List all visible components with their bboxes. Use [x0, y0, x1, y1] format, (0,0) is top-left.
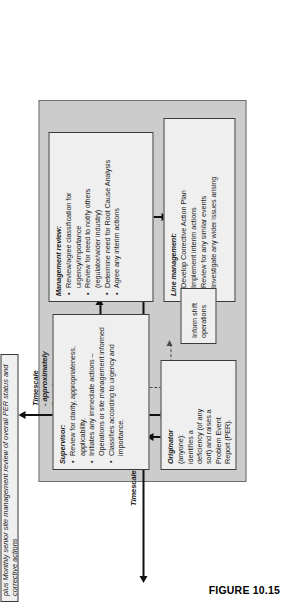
- box-supervisor: Supervisor: Review for clarity, appropri…: [52, 314, 149, 470]
- box-originator-header: Originator: [165, 366, 174, 464]
- box-originator-line-5: Problem Event: [213, 366, 222, 464]
- box-management-review-list: Review/agree classification for urgency/…: [63, 138, 120, 296]
- box-originator-line-3: deficiency (of any: [194, 366, 203, 464]
- box-inform-shift-operations: Inform shift operations: [180, 288, 216, 344]
- box-line-management-item-4: Investigate any wider issues arising: [208, 124, 217, 288]
- box-line-management-item-3: Review for any similar events: [198, 124, 207, 288]
- box-monthly-review-text: plus Monthly senior site management revi…: [0, 360, 18, 596]
- timescale-3-days-arrowhead-start: [139, 576, 147, 583]
- timescale-2-weeks-arrowhead-start: [18, 411, 25, 419]
- box-supervisor-item-2: Initiates any immediate actions – Operat…: [86, 320, 105, 456]
- connector-supervisor-to-inform-shift-arrowhead: [166, 340, 172, 346]
- box-management-review-item-1: Review/agree classification for urgency/…: [63, 138, 82, 288]
- box-originator-line-1: (anyone):: [175, 366, 184, 464]
- figure-caption: FIGURE 10.15: [209, 584, 280, 596]
- box-line-management-item-1: Develop Corrective Action Plan: [178, 124, 187, 288]
- box-supervisor-item-3: Classifies according to urgency and impo…: [106, 320, 125, 456]
- box-management-review-item-2: Review for need to notify others (regula…: [82, 138, 101, 288]
- box-originator: Originator (anyone): identifies a defici…: [160, 360, 236, 470]
- box-originator-line-4: sort) and raises a: [203, 366, 212, 464]
- box-management-review-item-3: Determine need for Root Cause Analysis: [102, 138, 111, 288]
- box-management-review: Management review: Review/agree classifi…: [48, 132, 153, 302]
- box-supervisor-list: Review for clarity, appropriateness, app…: [67, 320, 124, 464]
- box-line-management-list: Develop Corrective Action Plan Implement…: [178, 124, 217, 296]
- box-line-management: Line management: Develop Corrective Acti…: [163, 118, 235, 302]
- box-line-management-item-2: Implement interim actions: [188, 124, 197, 288]
- box-supervisor-header: Supervisor:: [57, 320, 66, 464]
- box-management-review-item-4: Agree any interim actions: [111, 138, 120, 288]
- figure-canvas: Timescale – approximately 3 working days…: [0, 0, 285, 602]
- box-inform-shift-operations-text: Inform shift operations: [189, 294, 208, 338]
- box-management-review-header: Management review:: [53, 138, 62, 296]
- box-monthly-review: plus Monthly senior site management revi…: [0, 354, 18, 602]
- box-line-management-header: Line management:: [168, 124, 177, 296]
- box-originator-line-2: identifies a: [185, 366, 194, 464]
- box-originator-line-6: Report (PER).: [222, 366, 231, 464]
- box-supervisor-item-1: Review for clarity, appropriateness, app…: [67, 320, 86, 456]
